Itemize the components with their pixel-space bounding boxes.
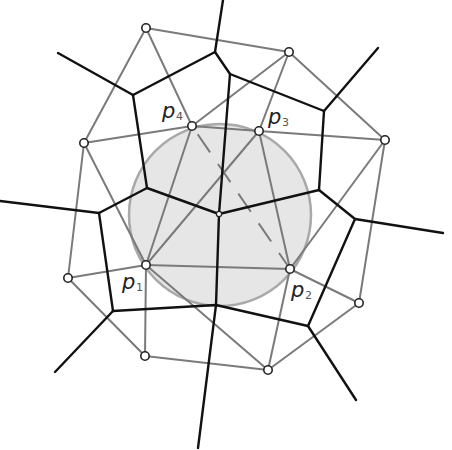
- site-point-s_farleft: [64, 274, 72, 282]
- site-point-s_left: [80, 139, 88, 147]
- voronoi-delaunay-diagram: p4p3p1p2: [0, 0, 452, 450]
- site-point-p2: [286, 265, 294, 273]
- label-subscript: 3: [282, 116, 289, 129]
- voronoi-edge: [198, 305, 216, 448]
- voronoi-edge: [99, 213, 113, 311]
- label-p4: p: [161, 99, 175, 123]
- site-point-p3: [255, 127, 263, 135]
- label-subscript: 1: [136, 281, 143, 294]
- voronoi-edge: [319, 190, 355, 219]
- label-p2: p: [290, 278, 304, 302]
- voronoi-vertex-icon: [216, 211, 221, 216]
- site-point-s_bottomleft: [141, 352, 149, 360]
- voronoi-edge: [319, 111, 324, 190]
- voronoi-center-vertex: [216, 211, 221, 216]
- voronoi-edge: [0, 201, 99, 213]
- voronoi-edge: [55, 311, 113, 372]
- voronoi-edge: [324, 48, 378, 111]
- voronoi-edge: [308, 326, 356, 400]
- delaunay-edge: [145, 265, 146, 356]
- site-point-s_farright: [355, 299, 363, 307]
- voronoi-edge: [215, 52, 230, 74]
- site-point-p1: [142, 261, 150, 269]
- delaunay-edge: [145, 356, 268, 370]
- site-point-p4: [188, 122, 196, 130]
- voronoi-edge: [216, 305, 308, 326]
- site-point-s_bottom: [264, 366, 272, 374]
- site-point-s_top: [142, 24, 150, 32]
- voronoi-edge: [215, 0, 223, 52]
- label-subscript: 2: [305, 289, 312, 302]
- label-p1: p: [121, 270, 135, 294]
- label-p3: p: [267, 105, 281, 129]
- voronoi-edge: [355, 219, 443, 233]
- label-subscript: 4: [176, 110, 183, 123]
- site-point-s_right: [381, 136, 389, 144]
- voronoi-edge: [113, 305, 216, 311]
- site-point-s_topright: [285, 48, 293, 56]
